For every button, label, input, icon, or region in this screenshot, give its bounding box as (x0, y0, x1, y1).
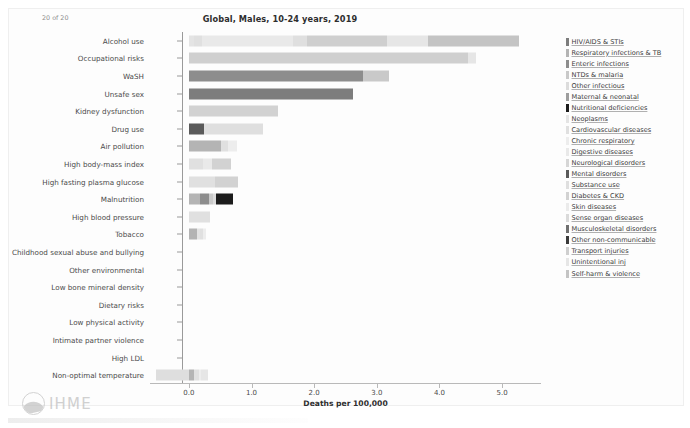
legend-swatch (566, 214, 569, 222)
footer-strip (8, 418, 308, 423)
legend-item[interactable]: Skin diseases (566, 202, 686, 213)
bar-segment (194, 35, 202, 46)
legend-item[interactable]: Digestive diseases (566, 146, 686, 157)
bar-row[interactable] (189, 71, 390, 82)
legend-swatch (566, 49, 569, 57)
bar-row[interactable] (189, 194, 233, 205)
y-axis-tick (177, 181, 182, 182)
bar-row[interactable] (189, 141, 237, 152)
bar-row[interactable] (189, 106, 279, 117)
y-axis-tick (177, 340, 182, 341)
bar-segment (216, 194, 233, 205)
bar-segment (189, 229, 197, 240)
y-axis-label: Intimate partner violence (53, 336, 144, 345)
y-axis-tick (177, 304, 182, 305)
legend-item[interactable]: Self-harm & violence (566, 268, 686, 279)
x-axis-tick (502, 384, 503, 388)
y-axis-label: Kidney dysfunction (75, 107, 144, 116)
y-axis-label: High body-mass index (64, 160, 144, 169)
legend-swatch (566, 137, 569, 145)
bar-row[interactable] (189, 35, 519, 46)
legend-swatch (566, 159, 569, 167)
y-axis-tick (177, 234, 182, 235)
bar-row[interactable] (189, 53, 477, 64)
bar-segment (293, 35, 307, 46)
bar-row[interactable] (189, 88, 353, 99)
legend-label: Unintentional inj (572, 258, 626, 266)
bar-segment (189, 53, 468, 64)
legend-swatch (566, 192, 569, 200)
y-axis-tick (177, 40, 182, 41)
legend-item[interactable]: Chronic respiratory (566, 135, 686, 146)
bar-row[interactable] (189, 176, 239, 187)
legend-item[interactable]: Neurological disorders (566, 158, 686, 169)
bar-segment (212, 159, 231, 170)
bar-segment (201, 370, 209, 381)
legend-item[interactable]: Transport injuries (566, 246, 686, 257)
y-axis-label: Malnutrition (101, 195, 144, 204)
y-axis-tick (177, 164, 182, 165)
legend-item[interactable]: Cardiovascular diseases (566, 124, 686, 135)
y-axis-label: High LDL (112, 353, 144, 362)
legend-item[interactable]: Respiratory infections & TB (566, 47, 686, 58)
legend-swatch (566, 82, 569, 90)
y-axis-label: Occupational risks (78, 54, 144, 63)
y-axis-label: Tobacco (115, 230, 144, 239)
legend-item[interactable]: NTDs & malaria (566, 69, 686, 80)
legend-swatch (566, 148, 569, 156)
legend-label: Cardiovascular diseases (572, 126, 652, 134)
legend-item[interactable]: Diabetes & CKD (566, 191, 686, 202)
legend-swatch (566, 115, 569, 123)
bar-row[interactable] (189, 159, 231, 170)
bar-row[interactable] (189, 211, 210, 222)
legend-label: HIV/AIDS & STIs (572, 38, 624, 46)
y-axis-label: High fasting plasma glucose (42, 177, 144, 186)
y-axis-label: Drug use (111, 124, 144, 133)
y-axis-tick (177, 322, 182, 323)
bar-segment (307, 35, 387, 46)
legend-swatch (566, 247, 569, 255)
legend-item[interactable]: Musculoskeletal disorders (566, 224, 686, 235)
legend-item[interactable]: Other infectious (566, 80, 686, 91)
legend-swatch (566, 225, 569, 233)
y-axis-tick (177, 216, 182, 217)
y-axis-label: Unsafe sex (105, 89, 145, 98)
bar-segment (203, 229, 206, 240)
y-axis-tick (177, 111, 182, 112)
legend-label: Sense organ diseases (572, 214, 644, 222)
legend: HIV/AIDS & STIsRespiratory infections & … (566, 36, 686, 279)
legend-item[interactable]: Neoplasms (566, 113, 686, 124)
legend-label: Self-harm & violence (572, 270, 641, 278)
legend-item[interactable]: Enteric infections (566, 58, 686, 69)
bar-segment (189, 176, 215, 187)
legend-item[interactable]: Sense organ diseases (566, 213, 686, 224)
legend-item[interactable]: HIV/AIDS & STIs (566, 36, 686, 47)
plot-area: Alcohol useOccupational risksWaSHUnsafe … (150, 32, 541, 384)
bar-segment (215, 176, 238, 187)
bar-segment (189, 211, 210, 222)
y-axis-tick (177, 128, 182, 129)
bar-row[interactable] (189, 229, 206, 240)
y-axis-label: Low bone mineral density (51, 283, 144, 292)
y-axis-label: Air pollution (101, 142, 144, 151)
ihme-logo-icon (22, 392, 45, 415)
legend-item[interactable]: Maternal & neonatal (566, 91, 686, 102)
legend-swatch (566, 258, 569, 266)
legend-item[interactable]: Other non-communicable (566, 235, 686, 246)
bar-row[interactable] (156, 370, 208, 381)
legend-item[interactable]: Nutritional deficiencies (566, 102, 686, 113)
legend-label: Nutritional deficiencies (572, 104, 648, 112)
bar-segment (189, 123, 204, 134)
legend-item[interactable]: Mental disorders (566, 169, 686, 180)
bar-segment (468, 53, 477, 64)
bar-segment (203, 159, 212, 170)
legend-item[interactable]: Substance use (566, 180, 686, 191)
bar-row[interactable] (189, 123, 264, 134)
legend-swatch (566, 170, 569, 178)
legend-item[interactable]: Unintentional inj (566, 257, 686, 268)
legend-swatch (566, 93, 569, 101)
y-axis-tick (177, 252, 182, 253)
y-axis-label: High blood pressure (72, 212, 144, 221)
legend-swatch (566, 126, 569, 134)
legend-label: Maternal & neonatal (572, 93, 639, 101)
